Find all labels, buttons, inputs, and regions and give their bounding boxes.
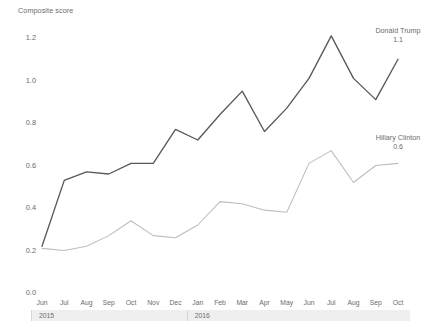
series-name: Donald Trump (375, 26, 420, 35)
series-end-value: 1.1 (366, 35, 423, 44)
series-line-donald-trump (42, 36, 398, 246)
series-label-hillary-clinton: Hillary Clinton0.6 (366, 133, 423, 151)
series-label-donald-trump: Donald Trump1.1 (366, 26, 423, 44)
series-end-value: 0.6 (366, 142, 423, 151)
series-name: Hillary Clinton (376, 133, 420, 142)
plot-area (0, 0, 423, 335)
composite-score-line-chart: Composite score 0.00.20.40.60.81.01.2 Ju… (0, 0, 423, 335)
series-line-hillary-clinton (42, 151, 398, 251)
